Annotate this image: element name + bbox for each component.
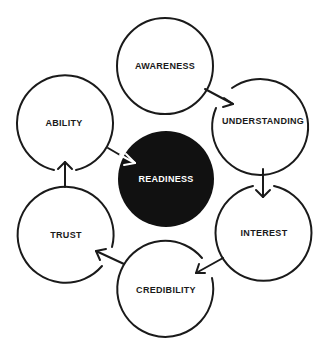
node-understanding-circle [212,79,308,175]
label-trust: TRUST [50,230,82,240]
label-ability: ABILITY [45,118,82,128]
arrow-interest-to-credibility [196,258,223,273]
label-readiness: READINESS [138,174,193,184]
label-understanding: UNDERSTANDING [222,116,304,126]
readiness-cycle-diagram: AWARENESS UNDERSTANDING INTEREST CREDIBI… [0,0,328,351]
label-interest: INTEREST [241,228,288,238]
label-awareness: AWARENESS [135,61,195,71]
arrow-awareness-to-understanding [205,89,233,107]
arrow-trust-to-ability [58,162,72,187]
arrow-credibility-to-trust [96,249,124,264]
label-credibility: CREDIBILITY [136,285,196,295]
arrow-understanding-to-interest [256,169,270,197]
